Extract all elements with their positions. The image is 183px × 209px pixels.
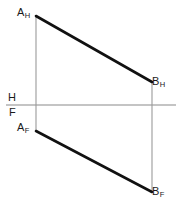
plane-label-f: F [9, 107, 16, 118]
point-label-a-horizontal: AH [17, 7, 30, 18]
point-label-b-horizontal-base: B [152, 75, 159, 87]
point-label-a-horizontal-base: A [17, 6, 24, 18]
line-ab-horizontal-view [36, 16, 152, 82]
point-label-a-frontal-base: A [17, 121, 24, 133]
point-label-a-frontal: AF [17, 122, 29, 133]
point-label-b-frontal-subscript: F [160, 190, 165, 199]
diagram-canvas [0, 0, 183, 209]
line-ab-frontal-view [36, 131, 152, 192]
point-label-a-frontal-subscript: F [25, 126, 30, 135]
point-label-a-horizontal-subscript: H [25, 11, 30, 20]
point-label-b-frontal-base: B [152, 185, 159, 197]
projection-diagram: AH BH AF BF H F [0, 0, 183, 209]
point-label-b-horizontal: BH [152, 76, 165, 87]
point-label-b-frontal: BF [152, 186, 164, 197]
plane-label-h: H [8, 92, 16, 103]
point-label-b-horizontal-subscript: H [160, 80, 165, 89]
